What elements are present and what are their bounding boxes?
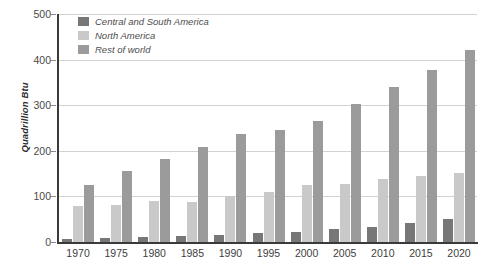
x-axis-tick-label: 2020 (440, 247, 478, 259)
bar (236, 134, 246, 242)
y-axis-tick-mark (51, 60, 56, 61)
bar (264, 192, 274, 242)
bar-group (364, 14, 402, 242)
bar (149, 201, 159, 242)
legend-item-label: Central and South America (95, 16, 209, 27)
legend-item-label: Rest of world (95, 44, 150, 55)
bar-group (440, 14, 478, 242)
y-axis-tick-mark (51, 105, 56, 106)
bar (62, 239, 72, 242)
bar (329, 229, 339, 242)
x-axis-tick-label: 2005 (326, 247, 364, 259)
legend-swatch-icon (78, 17, 89, 26)
bar (378, 179, 388, 242)
y-axis-tick-label: 100 (5, 190, 51, 202)
y-axis-tick-mark (51, 14, 56, 15)
bar (73, 206, 83, 242)
bar (253, 233, 263, 242)
bar (84, 185, 94, 242)
legend-swatch-icon (78, 31, 89, 40)
bar (225, 196, 235, 242)
bar (302, 185, 312, 242)
bar (176, 236, 186, 242)
x-axis-tick-label: 2000 (288, 247, 326, 259)
bar-group (288, 14, 326, 242)
bar (405, 223, 415, 242)
bar (160, 159, 170, 242)
bar (389, 87, 399, 243)
x-axis-tick-label: 1980 (135, 247, 173, 259)
x-axis-tick-label: 1985 (173, 247, 211, 259)
bar (187, 202, 197, 242)
bar (198, 147, 208, 242)
bar (100, 238, 110, 242)
y-axis-tick-mark (51, 196, 56, 197)
bar-group (211, 14, 249, 242)
bar-group (249, 14, 287, 242)
bar (465, 50, 475, 242)
x-axis-tick-label: 1970 (59, 247, 97, 259)
x-axis-line (57, 242, 478, 244)
y-axis-tick-mark (51, 242, 56, 243)
bar (427, 70, 437, 242)
y-axis-tick-label: 0 (5, 236, 51, 248)
bar (367, 227, 377, 242)
y-axis-tick-mark (51, 151, 56, 152)
bar (138, 237, 148, 242)
y-axis-tick-label: 300 (5, 99, 51, 111)
bar (214, 235, 224, 242)
bar (443, 219, 453, 242)
x-axis-tick-label: 1995 (249, 247, 287, 259)
bar (275, 130, 285, 242)
legend-item-rest-of-world: Rest of world (78, 43, 209, 56)
bar (313, 121, 323, 242)
y-axis-tick-label: 200 (5, 145, 51, 157)
y-axis-tick-labels: 0100200300400500 (0, 14, 51, 242)
bar-group (402, 14, 440, 242)
chart-legend: Central and South America North America … (78, 15, 209, 57)
y-axis-tick-label: 400 (5, 54, 51, 66)
bar-group (326, 14, 364, 242)
legend-swatch-icon (78, 45, 89, 54)
x-axis-tick-label: 1975 (97, 247, 135, 259)
bar (122, 171, 132, 242)
x-axis-tick-label: 1990 (211, 247, 249, 259)
bar (454, 173, 464, 242)
bar-chart: Quadrillion Btu 0100200300400500 1970197… (0, 0, 485, 272)
legend-item-north-america: North America (78, 29, 209, 42)
x-axis-tick-label: 2010 (364, 247, 402, 259)
bar (291, 232, 301, 242)
bar (351, 104, 361, 242)
bar (111, 205, 121, 242)
x-axis-tick-labels: 1970197519801985199019952000200520102015… (59, 247, 478, 259)
bar (416, 176, 426, 242)
bar (340, 184, 350, 242)
x-axis-tick-label: 2015 (402, 247, 440, 259)
y-axis-tick-label: 500 (5, 8, 51, 20)
legend-item-central-and-south-america: Central and South America (78, 15, 209, 28)
legend-item-label: North America (95, 30, 155, 41)
